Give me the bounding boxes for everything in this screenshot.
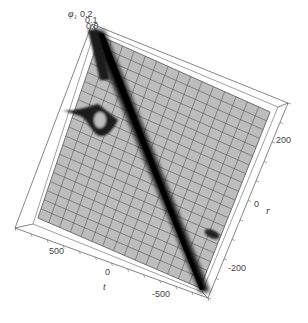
t-axis-label: t <box>103 281 106 292</box>
r-tick-0: 0 <box>254 199 259 209</box>
z-tick-0.0: 0.0 <box>86 21 99 31</box>
r-tick-200: 200 <box>276 135 291 145</box>
r-tick-m200: -200 <box>228 263 246 273</box>
t-tick-m500: -500 <box>152 289 170 299</box>
t-tick-0: 0 <box>105 267 110 277</box>
z-axis: φ₁ 0.2 0.1 0.0 <box>68 8 99 31</box>
surface-plot: φ₁ 0.2 0.1 0.0 500 0 t -500 200 0 r -200 <box>0 0 308 323</box>
t-tick-500: 500 <box>49 246 64 256</box>
z-axis-label: φ₁ <box>68 8 77 19</box>
r-axis-label: r <box>266 205 270 216</box>
